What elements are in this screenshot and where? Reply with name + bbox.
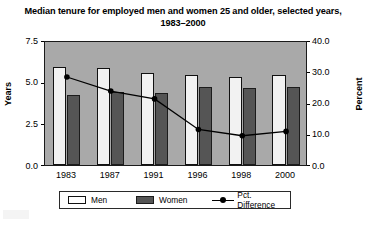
line-marker <box>196 127 202 133</box>
scan-artifact <box>3 210 29 219</box>
y-axis-ticks-left: 7.5 5.0 2.5 0.0 <box>8 41 38 166</box>
x-tick-label: 1991 <box>132 169 176 182</box>
x-tick-label: 1998 <box>219 169 263 182</box>
y-tick-right: 10.0 <box>312 129 344 140</box>
chart-legend: Men Women Pct. Difference <box>59 191 291 209</box>
legend-label-pct-difference: Pct. Difference <box>237 190 290 210</box>
line-marker <box>283 129 289 135</box>
legend-label-men: Men <box>91 195 107 205</box>
line-marker <box>239 133 245 139</box>
chart-container: Median tenure for employed men and women… <box>0 0 366 227</box>
y-axis-ticks-right: 40.0 30.0 20.0 10.0 0.0 <box>312 41 344 166</box>
men-swatch-icon <box>68 196 86 204</box>
y-tick-left: 5.0 <box>8 77 38 88</box>
y-tick-right: 0.0 <box>312 161 344 172</box>
women-swatch-icon <box>136 196 154 204</box>
y-tick-left: 2.5 <box>8 119 38 130</box>
legend-item-women: Women <box>136 192 187 208</box>
legend-item-pct-difference: Pct. Difference <box>212 192 290 208</box>
plot-area <box>44 41 307 166</box>
y-tick-right: 20.0 <box>312 98 344 109</box>
y-tick-right: 30.0 <box>312 67 344 78</box>
x-tick-label: 1987 <box>88 169 132 182</box>
y-axis-label-right: Percent <box>354 64 364 124</box>
x-tick-label: 2000 <box>263 169 307 182</box>
line-markers <box>64 74 289 138</box>
x-tick-label: 1983 <box>44 169 88 182</box>
line-marker <box>64 74 70 80</box>
pct-difference-line <box>45 42 307 166</box>
chart-title: Median tenure for employed men and women… <box>24 5 342 29</box>
x-tick-label: 1996 <box>176 169 220 182</box>
y-tick-left: 0.0 <box>8 161 38 172</box>
x-axis-labels: 198319871991199619982000 <box>44 169 307 182</box>
line-marker <box>152 96 158 102</box>
legend-item-men: Men <box>68 192 107 208</box>
line-path <box>67 77 286 136</box>
legend-label-women: Women <box>159 195 187 205</box>
y-tick-right: 40.0 <box>312 36 344 47</box>
line-marker <box>108 88 114 94</box>
line-marker-icon <box>212 196 233 204</box>
y-tick-left: 7.5 <box>8 36 38 47</box>
